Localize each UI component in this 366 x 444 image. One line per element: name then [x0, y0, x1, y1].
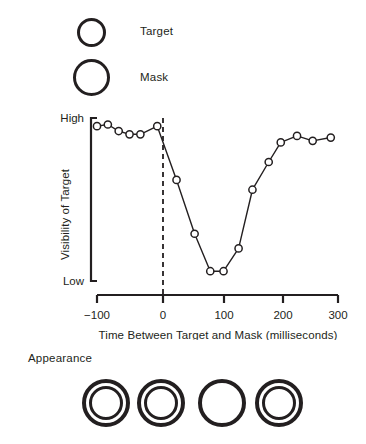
x-tick-label-300: 300 — [328, 309, 347, 321]
data-point — [235, 245, 242, 252]
data-point — [309, 137, 316, 144]
x-tick-label-200: 200 — [273, 309, 292, 321]
appearance-figure-4 — [255, 379, 303, 427]
data-point — [249, 186, 256, 193]
x-tick-label-0: 0 — [160, 309, 166, 321]
visibility-line-chart: High Low Visibility of Target −100 0 100… — [0, 105, 366, 340]
data-point — [173, 176, 180, 183]
y-axis-low-label: Low — [63, 275, 85, 287]
data-point — [293, 132, 300, 139]
appearance-target-ring-icon — [262, 386, 296, 420]
appearance-target-ring-icon — [89, 386, 123, 420]
x-tick-label-100: 100 — [214, 309, 233, 321]
x-tick-label-neg100: −100 — [84, 309, 110, 321]
legend-mask-circle-icon — [73, 59, 110, 96]
legend-target-label: Target — [140, 25, 173, 37]
data-point — [220, 268, 227, 275]
masking-figure: Target Mask High Low Visibility of Targe… — [0, 0, 366, 444]
visibility-data-line — [97, 125, 331, 272]
data-point — [115, 127, 122, 134]
y-axis-title: Visibility of Target — [59, 168, 71, 260]
y-axis-bracket — [91, 118, 97, 281]
appearance-figure-1 — [82, 379, 130, 427]
appearance-section-label: Appearance — [28, 352, 92, 364]
appearance-figure-2 — [137, 379, 185, 427]
data-point — [207, 268, 214, 275]
legend-mask-label: Mask — [140, 71, 168, 83]
legend-target-circle-icon — [77, 18, 106, 47]
data-point — [191, 230, 198, 237]
appearance-target-ring-icon — [144, 386, 178, 420]
y-axis-high-label: High — [60, 112, 84, 124]
data-point — [104, 121, 111, 128]
data-point — [137, 131, 144, 138]
appearance-mask-ring-icon — [198, 379, 246, 427]
data-point — [327, 134, 334, 141]
data-point — [126, 131, 133, 138]
data-point — [154, 123, 161, 130]
visibility-data-markers — [93, 121, 334, 275]
data-point — [277, 139, 284, 146]
data-point — [265, 158, 272, 165]
data-point — [93, 123, 100, 130]
x-axis-title: Time Between Target and Mask (millisecon… — [99, 329, 338, 340]
appearance-figure-3 — [198, 379, 246, 427]
